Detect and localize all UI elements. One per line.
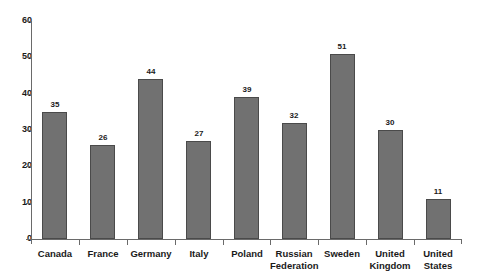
x-axis-category-label: United Kingdom [366, 248, 414, 271]
x-axis-separator [223, 240, 224, 245]
x-axis-separator [270, 240, 271, 245]
bar [42, 112, 67, 239]
bar [234, 97, 259, 239]
x-axis-separator [127, 240, 128, 245]
bar-value-label: 26 [83, 134, 123, 142]
x-axis-line [31, 239, 462, 240]
x-axis-category-label: Russian Federation [270, 248, 318, 271]
x-axis-category-label: Sweden [318, 248, 366, 260]
bar [330, 54, 355, 239]
x-axis-separator [79, 240, 80, 245]
x-axis-category-label: Poland [223, 248, 271, 260]
bar-value-label: 32 [274, 112, 314, 120]
x-axis-separator [175, 240, 176, 245]
bar-chart: 0102030405060 352644273932513011 CanadaF… [0, 0, 477, 279]
bar-value-label: 30 [370, 119, 410, 127]
bar [426, 199, 451, 239]
bar-value-label: 35 [35, 101, 75, 109]
bar-value-label: 27 [179, 130, 219, 138]
x-axis-category-label: Italy [175, 248, 223, 260]
x-axis-right-cap [461, 239, 462, 244]
bar [282, 123, 307, 239]
bar-value-label: 44 [131, 68, 171, 76]
x-axis-category-label: Canada [31, 248, 79, 260]
bar-value-label: 51 [322, 43, 362, 51]
x-axis-separator [318, 240, 319, 245]
bar [90, 145, 115, 239]
x-axis-category-label: United States [414, 248, 462, 271]
x-axis-separator [366, 240, 367, 245]
x-axis-category-label: Germany [127, 248, 175, 260]
bar-value-label: 11 [418, 188, 458, 196]
bar [378, 130, 403, 239]
x-axis-left-cap [31, 239, 32, 244]
bar [186, 141, 211, 239]
bar-value-label: 39 [227, 86, 267, 94]
x-axis-separator [414, 240, 415, 245]
y-axis-line [31, 21, 32, 239]
bar [138, 79, 163, 239]
x-axis-category-label: France [79, 248, 127, 260]
